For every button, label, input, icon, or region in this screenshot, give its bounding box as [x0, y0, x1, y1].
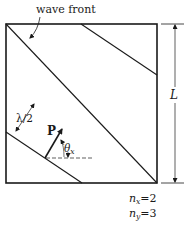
wave-front-line-upper: [81, 24, 157, 75]
wave-front-line-main: [6, 24, 157, 183]
angle-theta-label: θx: [64, 142, 75, 156]
momentum-label: P: [47, 124, 56, 138]
wave-front-line-lower: [6, 132, 82, 183]
side-length-label: L: [169, 88, 178, 102]
wave-front-leader-arrow: [30, 17, 40, 38]
ny-label: ny=3: [129, 207, 157, 221]
standing-wave-box-diagram: wave front λ/2 P θx L nx=2 ny=3: [0, 0, 189, 226]
half-wavelength-label: λ/2: [16, 112, 33, 124]
wave-front-label: wave front: [36, 3, 96, 16]
nx-label: nx=2: [129, 192, 157, 206]
